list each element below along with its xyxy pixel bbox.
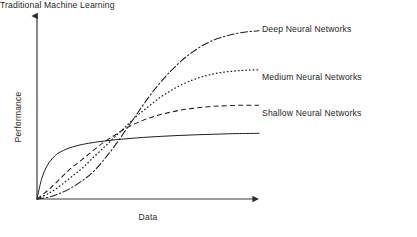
series-label-medium-neural-networks: Medium Neural Networks	[262, 72, 362, 82]
series-line-traditional-machine-learning	[37, 133, 259, 199]
series-label-traditional-machine-learning: Traditional Machine Learning	[0, 0, 115, 10]
series-label-deep-neural-networks: Deep Neural Networks	[262, 24, 351, 34]
series-label-shallow-neural-networks: Shallow Neural Networks	[262, 108, 361, 118]
series-line-deep-neural-networks	[37, 31, 259, 199]
y-axis-label: Performance	[13, 77, 23, 157]
chart-plot-area	[0, 0, 417, 237]
chart-figure: Performance Data Deep Neural Networks Me…	[0, 0, 417, 237]
series-line-medium-neural-networks	[37, 70, 259, 199]
series-line-shallow-neural-networks	[37, 105, 259, 199]
x-axis-label: Data	[118, 212, 178, 222]
